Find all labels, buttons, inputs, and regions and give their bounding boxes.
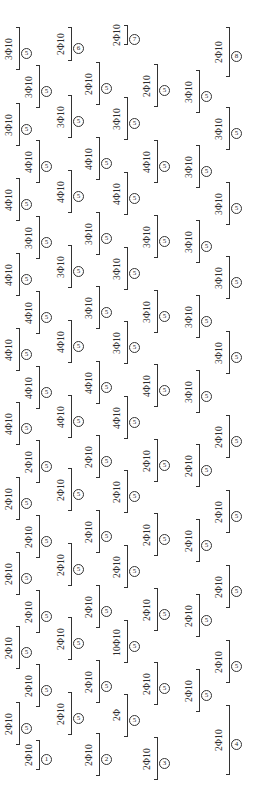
bar-mark-circle-icon: 5 (101, 681, 112, 692)
rebar-callout: 2Φ10 5 (124, 470, 144, 513)
rebar-bracket-line (36, 216, 40, 259)
rebar-bracket-line (124, 247, 128, 290)
rebar-callout: 3Φ10 5 (96, 286, 116, 329)
bar-mark-circle-icon: 5 (129, 118, 140, 129)
rebar-bracket-line (68, 170, 72, 213)
rebar-bracket-line (36, 65, 40, 108)
rebar-callout: 3Φ10 5 (124, 247, 144, 290)
rebar-bracket-line (36, 440, 40, 483)
bar-mark-circle-icon: 1 (41, 754, 52, 765)
rebar-callout: 4Φ10 5 (96, 137, 116, 180)
rebar-callout: 2Φ10 5 (68, 468, 88, 511)
bar-mark-circle-icon: 5 (73, 489, 84, 500)
rebar-bracket-line (124, 545, 128, 588)
bar-mark-circle-icon: 5 (201, 166, 212, 177)
rebar-callout: 2Φ10 5 (154, 439, 174, 482)
bar-mark-circle-icon: 5 (101, 83, 112, 94)
bar-mark-circle-icon: 8 (231, 51, 242, 62)
bar-mark-circle-icon: 5 (201, 391, 212, 402)
rebar-callout: 4Φ10 5 (16, 328, 36, 371)
rebar-callout: 4Φ10 5 (68, 320, 88, 363)
bar-mark-circle-icon: 5 (201, 465, 212, 476)
rebar-callout: 3Φ10 5 (68, 245, 88, 288)
rebar-bracket-line (226, 107, 230, 150)
rebar-callout: 4Φ10 5 (96, 361, 116, 404)
bar-mark-circle-icon: 5 (41, 685, 52, 696)
rebar-callout: 3Φ10 5 (196, 370, 216, 413)
rebar-bracket-line (196, 145, 200, 188)
rebar-bracket-line (68, 395, 72, 438)
rebar-callout: 3Φ10 5 (196, 145, 216, 188)
rebar-bracket-line (16, 328, 20, 371)
bar-mark-circle-icon: 5 (41, 237, 52, 248)
rebar-bracket-line (96, 361, 100, 404)
rebar-spec-label: 3Φ10 (56, 256, 66, 278)
rebar-spec-label: 2Φ10 (84, 73, 94, 95)
rebar-callout: 4Φ10 5 (16, 178, 36, 221)
rebar-bracket-line (154, 64, 158, 107)
rebar-spec-label: 4Φ10 (84, 148, 94, 170)
rebar-spec-label: 4Φ10 (56, 331, 66, 353)
rebar-bracket-line (16, 552, 20, 595)
rebar-spec-label: 3Φ10 (214, 193, 224, 215)
rebar-bracket-line (36, 515, 40, 558)
bar-mark-circle-icon: 5 (231, 277, 242, 288)
rebar-callout: 3Φ10 5 (154, 215, 174, 258)
rebar-bracket-line (226, 705, 230, 775)
rebar-bracket-line (124, 396, 128, 439)
bar-mark-circle-icon: 5 (21, 349, 32, 360)
rebar-bracket-line (96, 286, 100, 329)
rebar-bracket-line (196, 594, 200, 637)
rebar-bracket-line (124, 97, 128, 140)
rebar-spec-label: 2Φ10 (214, 576, 224, 598)
rebar-callout: 2Φ10 5 (68, 543, 88, 586)
rebar-spec-label: 3Φ10 (24, 227, 34, 249)
rebar-bracket-line (124, 321, 128, 364)
bar-mark-circle-icon: 5 (201, 316, 212, 327)
rebar-callout: 3Φ10 5 (36, 65, 56, 108)
rebar-bracket-line (16, 477, 20, 520)
bar-mark-circle-icon: 5 (73, 416, 84, 427)
rebar-callout: 2Φ10 5 (96, 510, 116, 553)
rebar-callout: 2Φ10 5 (96, 435, 116, 478)
rebar-callout: 4Φ10 5 (124, 396, 144, 439)
rebar-bracket-line (124, 620, 128, 663)
rebar-bracket-line (68, 692, 72, 735)
bar-mark-circle-icon: 5 (129, 491, 140, 502)
bar-mark-circle-icon: 5 (159, 385, 170, 396)
rebar-bracket-line (16, 178, 20, 221)
rebar-spec-label: 4Φ10 (24, 377, 34, 399)
rebar-spec-label: 2Φ10 (56, 554, 66, 576)
rebar-bracket-line (96, 137, 100, 180)
bar-mark-circle-icon: 5 (41, 536, 52, 547)
rebar-spec-label: 3Φ10 (4, 114, 14, 136)
rebar-spec-label: 2Φ10 (56, 628, 66, 650)
rebar-callout: 4Φ10 5 (68, 170, 88, 213)
rebar-callout: 2Φ10 6 (68, 27, 88, 61)
rebar-spec-label: 3Φ10 (184, 231, 194, 253)
rebar-callout: 3Φ10 5 (196, 220, 216, 263)
rebar-spec-label: 2Φ10 (112, 481, 122, 503)
rebar-bracket-line (226, 27, 230, 77)
rebar-spec-label: 2Φ10 (24, 451, 34, 473)
rebar-bracket-line (16, 253, 20, 296)
rebar-spec-label: 2Φ10 (142, 450, 152, 472)
bar-mark-circle-icon: 5 (231, 586, 242, 597)
rebar-bracket-line (68, 27, 72, 61)
rebar-bracket-line (96, 585, 100, 628)
bar-mark-circle-icon: 5 (101, 456, 112, 467)
rebar-bracket-line (68, 245, 72, 288)
bar-mark-circle-icon: 5 (41, 86, 52, 97)
rebar-callout: 3Φ10 5 (226, 331, 246, 374)
rebar-callout: 2Φ10 5 (16, 626, 36, 669)
rebar-bracket-line (124, 694, 128, 737)
rebar-callout: 4Φ10 5 (16, 402, 36, 445)
rebar-spec-label: 2Φ10 (112, 556, 122, 578)
rebar-bracket-line (96, 510, 100, 553)
rebar-spec-label: 3Φ10 (184, 81, 194, 103)
rebar-bracket-line (154, 215, 158, 258)
rebar-spec-label: 2Φ10 (24, 601, 34, 623)
bar-mark-circle-icon: 5 (41, 387, 52, 398)
rebar-callout: 2Φ10 5 (226, 415, 246, 458)
rebar-spec-label: 4Φ10 (112, 407, 122, 429)
